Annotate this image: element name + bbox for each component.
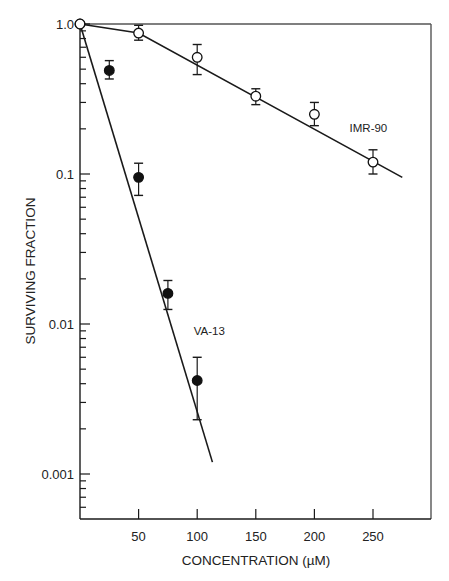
fit-line-imr90 <box>80 24 402 177</box>
y-tick-label: 0.001 <box>41 467 74 482</box>
data-point-imr90 <box>251 91 261 101</box>
series-label-va13: VA-13 <box>194 325 225 337</box>
x-tick-label: 50 <box>131 529 145 544</box>
data-point-imr90 <box>310 110 320 120</box>
x-tick-label: 200 <box>304 529 326 544</box>
data-point-va13 <box>105 66 115 76</box>
data-point-imr90 <box>192 52 202 62</box>
y-tick-label: 0.01 <box>49 317 74 332</box>
y-axis-title: SURVIVING FRACTION <box>23 198 38 345</box>
x-tick-label: 100 <box>186 529 208 544</box>
fit-lines <box>80 24 402 462</box>
y-tick-label: 0.1 <box>56 167 74 182</box>
data-point-va13 <box>134 173 144 183</box>
data-point-imr90 <box>368 157 378 167</box>
data-point-va13 <box>163 289 173 299</box>
y-tick-label: 1.0 <box>56 17 74 32</box>
data-point-va13 <box>192 376 202 386</box>
x-axis-ticks: 50100150200250 <box>131 509 383 544</box>
data-points <box>75 19 378 385</box>
error-bars <box>105 25 378 419</box>
x-tick-label: 250 <box>362 529 384 544</box>
fit-line-va13 <box>80 24 212 462</box>
data-point-imr90 <box>134 28 144 38</box>
survival-chart: 1.00.10.010.001 50100150200250 CONCENTRA… <box>0 0 449 581</box>
y-axis-ticks: 1.00.10.010.001 <box>41 17 90 507</box>
series-label-imr90: IMR-90 <box>350 122 388 134</box>
data-point-imr90 <box>75 19 85 29</box>
x-axis-title: CONCENTRATION (µM) <box>182 553 331 568</box>
x-tick-label: 150 <box>245 529 267 544</box>
